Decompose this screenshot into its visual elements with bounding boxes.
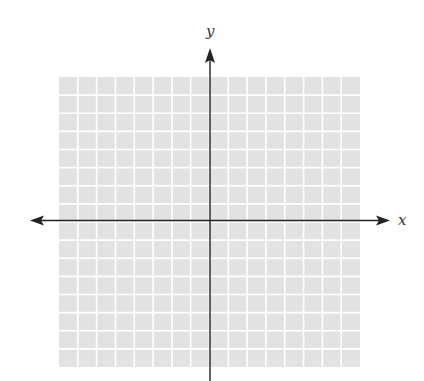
coordinate-plane: y x bbox=[0, 0, 424, 381]
y-axis-label: y bbox=[205, 22, 215, 40]
x-axis-label: x bbox=[398, 211, 407, 229]
